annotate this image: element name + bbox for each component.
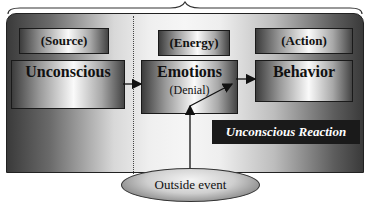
arrow-event-to-behavior <box>190 84 232 106</box>
flow-arrows <box>0 0 371 205</box>
